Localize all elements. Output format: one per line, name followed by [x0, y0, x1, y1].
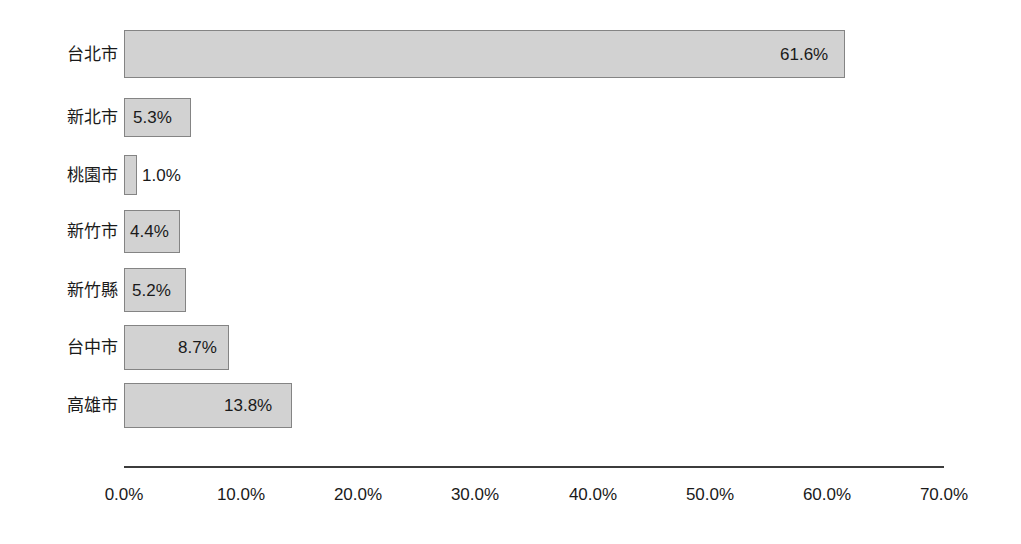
- x-tick-label: 40.0%: [533, 486, 653, 503]
- x-tick-label: 20.0%: [298, 486, 418, 503]
- bar-value-label: 5.2%: [132, 282, 171, 299]
- bar-row: 新北市 5.3%: [0, 98, 1021, 137]
- bar-value-label: 8.7%: [178, 339, 217, 356]
- category-label: 桃園市: [28, 167, 118, 184]
- bar-row: 新竹市 4.4%: [0, 210, 1021, 253]
- category-label: 台北市: [28, 46, 118, 63]
- category-label: 新竹市: [28, 223, 118, 240]
- x-axis-line: [124, 466, 944, 468]
- category-label: 新北市: [28, 109, 118, 126]
- bar-segment: [124, 155, 137, 195]
- bar-value-label: 4.4%: [130, 223, 169, 240]
- bar-row: 新竹縣 5.2%: [0, 268, 1021, 312]
- bar-value-label: 1.0%: [142, 167, 181, 184]
- bar-row: 桃園市 1.0%: [0, 155, 1021, 195]
- category-label: 新竹縣: [28, 282, 118, 299]
- x-tick-label: 0.0%: [64, 486, 184, 503]
- bar-value-label: 5.3%: [133, 109, 172, 126]
- category-label: 高雄市: [28, 397, 118, 414]
- x-tick-label: 60.0%: [767, 486, 887, 503]
- category-label: 台中市: [28, 339, 118, 356]
- bar-segment: [124, 30, 845, 78]
- bar-value-label: 61.6%: [780, 46, 828, 63]
- bar-chart: 台北市 61.6% 新北市 5.3% 桃園市 1.0% 新竹市 4.4% 新竹縣…: [0, 0, 1021, 544]
- plot-area: 台北市 61.6% 新北市 5.3% 桃園市 1.0% 新竹市 4.4% 新竹縣…: [0, 0, 1021, 455]
- bar-value-label: 13.8%: [224, 397, 272, 414]
- x-tick-label: 30.0%: [415, 486, 535, 503]
- x-tick-label: 10.0%: [181, 486, 301, 503]
- bar-row: 高雄市 13.8%: [0, 383, 1021, 428]
- x-tick-label: 70.0%: [884, 486, 1004, 503]
- bar-row: 台中市 8.7%: [0, 325, 1021, 370]
- x-tick-label: 50.0%: [650, 486, 770, 503]
- bar-row: 台北市 61.6%: [0, 30, 1021, 78]
